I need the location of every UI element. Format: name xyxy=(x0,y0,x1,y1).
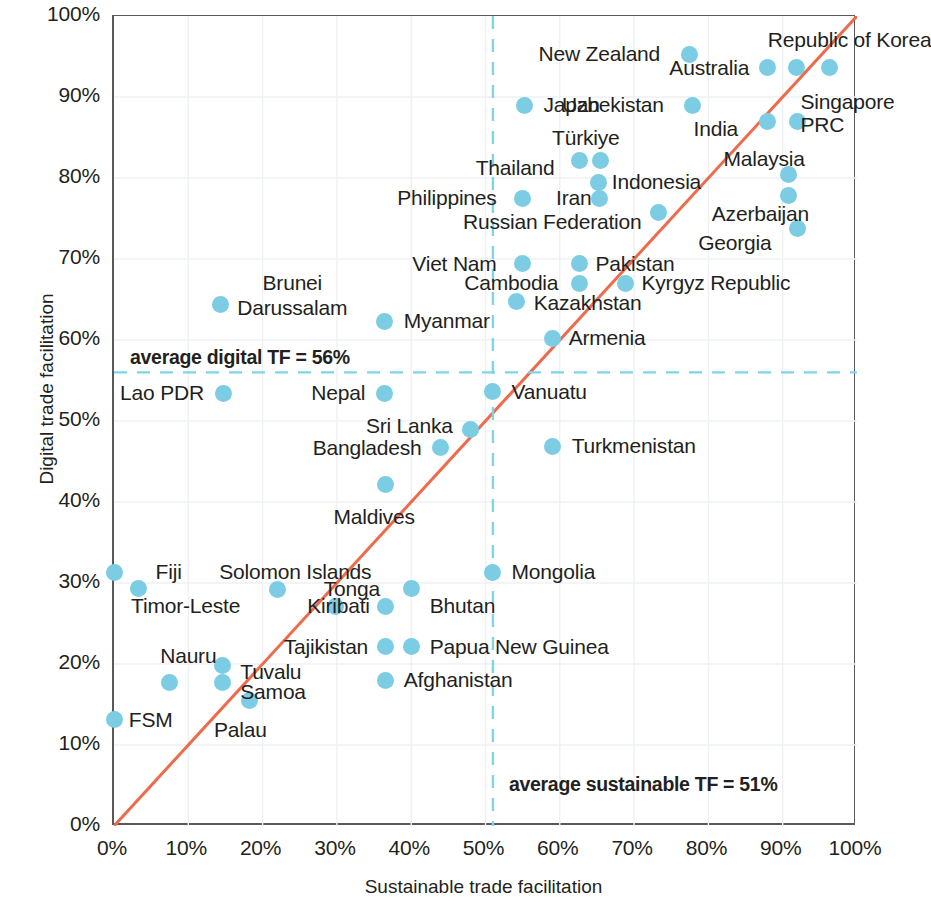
y-axis-tick-label: 0% xyxy=(0,812,100,836)
data-point-label: Mongolia xyxy=(512,561,596,583)
plot-area: New ZealandRepublic of KoreaAustraliaSin… xyxy=(112,15,855,825)
data-point-label: Singapore xyxy=(801,91,895,113)
data-point-label: New Zealand xyxy=(539,43,661,65)
data-point-label: Nauru xyxy=(160,645,216,667)
x-axis-tick-label: 10% xyxy=(166,836,207,860)
x-axis-tick-label: 80% xyxy=(686,836,727,860)
data-point-label: Myanmar xyxy=(404,310,490,332)
data-point-label: Türkiye xyxy=(552,126,619,148)
x-axis-tick-label: 20% xyxy=(240,836,281,860)
data-point-marker xyxy=(377,476,394,493)
data-point-marker xyxy=(590,174,607,191)
data-point-label: Maldives xyxy=(333,505,414,527)
data-point-label: Lao PDR xyxy=(120,382,204,404)
data-point-marker xyxy=(788,59,805,76)
data-point-label: Azerbaijan xyxy=(712,203,809,225)
data-point-label: FSM xyxy=(129,709,173,731)
x-axis-title: Sustainable trade facilitation xyxy=(112,876,855,898)
data-point-label: Kazakhstan xyxy=(534,292,642,314)
data-point-marker xyxy=(376,385,393,402)
data-point-label: Sri Lanka xyxy=(366,415,453,437)
data-point-marker xyxy=(544,330,561,347)
data-point-label: Malaysia xyxy=(723,147,804,169)
x-axis-tick-label: 60% xyxy=(537,836,578,860)
y-axis-tick-label: 10% xyxy=(0,731,100,755)
data-point-label: Republic of Korea xyxy=(768,29,931,51)
y-axis-tick-label: 100% xyxy=(0,2,100,26)
data-point-label: Thailand xyxy=(476,157,555,179)
data-point-marker xyxy=(106,711,123,728)
data-point-label: Kiribati xyxy=(307,595,370,617)
data-point-marker xyxy=(403,580,420,597)
average-sustainable-tf-annotation: average sustainable TF = 51% xyxy=(509,773,778,796)
data-point-label: Australia xyxy=(669,57,749,79)
data-point-marker xyxy=(617,275,634,292)
x-axis-tick-label: 90% xyxy=(760,836,801,860)
data-point-marker xyxy=(215,385,232,402)
x-axis-tick-label: 0% xyxy=(97,836,127,860)
data-point-label: Iran xyxy=(556,187,591,209)
data-point-label: Timor-Leste xyxy=(131,595,240,617)
data-point-label: Georgia xyxy=(698,232,771,254)
data-point-label: Nepal xyxy=(311,382,365,404)
y-axis-tick-label: 80% xyxy=(0,164,100,188)
data-point-marker xyxy=(377,672,394,689)
x-axis-tick-label: 70% xyxy=(611,836,652,860)
data-point-marker xyxy=(514,190,531,207)
x-axis-tick-labels: 0%10%20%30%40%50%60%70%80%90%100% xyxy=(112,836,855,870)
y-axis-tick-label: 20% xyxy=(0,650,100,674)
data-point-marker xyxy=(508,293,525,310)
data-point-marker xyxy=(214,657,231,674)
data-point-label: Palau xyxy=(214,719,267,741)
x-axis-tick-label: 30% xyxy=(314,836,355,860)
data-point-marker xyxy=(462,421,479,438)
data-point-label: PRC xyxy=(801,114,845,136)
plot-graphics-layer xyxy=(114,16,857,826)
data-point-label: Philippines xyxy=(397,187,496,209)
data-point-label: Papua New Guinea xyxy=(430,636,609,658)
data-point-label: Russian Federation xyxy=(463,211,642,233)
y-axis-tick-label: 30% xyxy=(0,569,100,593)
data-point-label: Bhutan xyxy=(430,595,495,617)
data-point-label: Samoa xyxy=(240,681,306,703)
data-point-label: Brunei Darussalam xyxy=(237,271,347,319)
data-point-label: Uzbekistan xyxy=(562,94,664,116)
x-axis-tick-label: 100% xyxy=(829,836,882,860)
data-point-label: India xyxy=(694,118,739,140)
data-point-label: Armenia xyxy=(569,327,646,349)
data-point-marker xyxy=(516,97,533,114)
data-point-label: Turkmenistan xyxy=(572,435,696,457)
data-point-label: Afghanistan xyxy=(404,669,513,691)
average-digital-tf-annotation: average digital TF = 56% xyxy=(130,346,350,369)
data-point-marker xyxy=(106,564,123,581)
data-point-label: Indonesia xyxy=(612,171,701,193)
x-axis-tick-label: 40% xyxy=(388,836,429,860)
data-point-marker xyxy=(684,97,701,114)
y-axis-tick-label: 90% xyxy=(0,83,100,107)
data-point-label: Vanuatu xyxy=(512,381,587,403)
data-point-marker xyxy=(376,313,393,330)
data-point-marker xyxy=(571,152,588,169)
data-point-label: Fiji xyxy=(156,561,182,583)
x-axis-tick-label: 50% xyxy=(463,836,504,860)
data-point-marker xyxy=(214,674,231,691)
data-point-label: Tajikistan xyxy=(284,636,368,658)
data-point-label: Bangladesh xyxy=(313,437,422,459)
data-point-marker xyxy=(759,113,776,130)
data-point-label: Kyrgyz Republic xyxy=(642,272,791,294)
data-point-marker xyxy=(544,438,561,455)
y-axis-title: Digital trade facilitation xyxy=(36,239,58,539)
data-point-marker xyxy=(592,152,609,169)
